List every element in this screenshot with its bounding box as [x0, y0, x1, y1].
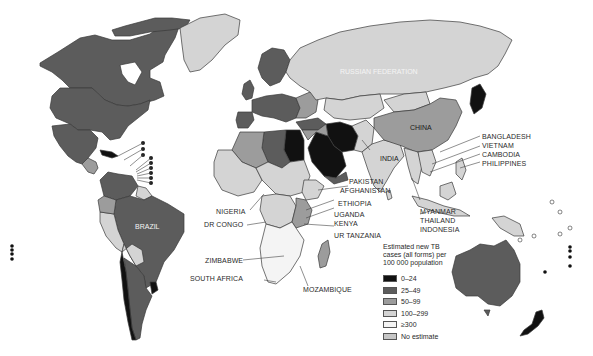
- iberia: [236, 112, 254, 128]
- uk: [242, 80, 254, 100]
- uruguay: [150, 282, 158, 294]
- label-pakistan: PAKISTAN: [349, 178, 383, 186]
- label-myanmar: MYANMAR: [420, 208, 456, 216]
- label-philippines: PHILIPPINES: [482, 160, 526, 168]
- legend-label: 50–99: [401, 298, 420, 305]
- legend-title-line: 100 000 population: [383, 259, 493, 267]
- legend-label: 0–24: [401, 275, 417, 282]
- label-nigeria: NIGERIA: [216, 208, 245, 216]
- greenland: [180, 14, 240, 72]
- western-europe: [252, 94, 300, 122]
- colombia-venezuela: [100, 172, 138, 200]
- legend-swatch: [383, 298, 397, 305]
- legend-title-line: cases (all forms) per: [383, 251, 493, 259]
- ethiopia: [302, 180, 324, 200]
- label-brazil: BRAZIL: [135, 223, 160, 231]
- label-ur-tanzania: UR TANZANIA: [334, 232, 381, 240]
- label-kenya: KENYA: [334, 220, 358, 228]
- japan-korea: [470, 84, 486, 114]
- label-bangladesh: BANGLADESH: [482, 133, 531, 141]
- label-vietnam: VIETNAM: [482, 142, 514, 150]
- legend-label: 25–49: [401, 287, 420, 294]
- label-thailand: THAILAND: [420, 217, 455, 225]
- cuba: [100, 150, 118, 158]
- legend-title-line: Estimated new TB: [383, 243, 493, 251]
- papua-new-guinea: [492, 216, 524, 236]
- label-indonesia: INDONESIA: [420, 226, 459, 234]
- legend-label: No estimate: [401, 333, 438, 340]
- philippines: [456, 158, 466, 180]
- label-afghanistan: AFGHANISTAN: [340, 187, 390, 195]
- borneo: [440, 182, 456, 200]
- legend-swatch: [383, 333, 397, 340]
- legend-item: 0–24: [383, 273, 493, 285]
- label-zimbabwe: ZIMBABWE: [205, 257, 243, 265]
- legend-swatch: [383, 321, 397, 328]
- label-ethiopia: ETHIOPIA: [338, 200, 371, 208]
- caribbean-dots: [141, 141, 153, 185]
- legend-label: 100–299: [401, 310, 428, 317]
- east-africa: [292, 198, 312, 228]
- label-cambodia: CAMBODIA: [482, 151, 520, 159]
- world-map: [0, 0, 593, 356]
- label-south-africa: SOUTH AFRICA: [190, 275, 243, 283]
- label-mozambique: MOZAMBIQUE: [303, 286, 352, 294]
- label-russia: RUSSIAN FEDERATION: [340, 68, 418, 76]
- legend-swatch: [383, 287, 397, 294]
- legend-label: ≥300: [401, 321, 417, 328]
- legend-item: 25–49: [383, 284, 493, 296]
- label-dr-congo: DR CONGO: [204, 221, 243, 229]
- southern-africa: [260, 222, 304, 284]
- label-uganda: UGANDA: [334, 211, 365, 219]
- legend-item: ≥300: [383, 319, 493, 331]
- madagascar: [318, 240, 330, 268]
- scandinavia: [258, 48, 290, 86]
- legend: Estimated new TB cases (all forms) per 1…: [383, 243, 493, 342]
- legend-swatch: [383, 275, 397, 282]
- legend-item: No estimate: [383, 331, 493, 343]
- label-india: INDIA: [380, 155, 399, 163]
- legend-item: 100–299: [383, 307, 493, 319]
- new-zealand: [520, 310, 544, 336]
- legend-item: 50–99: [383, 296, 493, 308]
- legend-title: Estimated new TB cases (all forms) per 1…: [383, 243, 493, 268]
- pacific-islands: [518, 200, 572, 242]
- label-china: CHINA: [410, 124, 432, 132]
- legend-swatch: [383, 310, 397, 317]
